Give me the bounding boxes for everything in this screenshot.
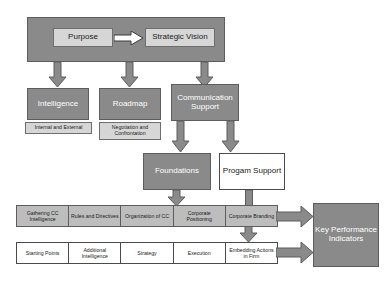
bar-bottom-cell: Embedding Actions in Firm bbox=[225, 242, 278, 264]
communication-support-box: Communication Support bbox=[171, 84, 239, 121]
purpose-label: Purpose bbox=[68, 33, 98, 42]
right-arrow-icon-kpi-top bbox=[276, 206, 314, 227]
intelligence-sublabel: Internal and External bbox=[35, 125, 83, 131]
right-arrow-icon-kpi-bottom bbox=[276, 242, 314, 263]
purpose-box: Purpose bbox=[53, 28, 113, 47]
bar-bottom-cell: Starting Points bbox=[16, 242, 69, 264]
program-support-box: Progam Support bbox=[219, 153, 285, 190]
program-support-label: Progam Support bbox=[223, 167, 281, 176]
down-arrow-icon-foundations bbox=[172, 121, 190, 153]
bar-top-cell: Organization of CC bbox=[120, 205, 173, 227]
key-performance-indicators-label: Key Performance Indicators bbox=[314, 226, 378, 244]
bar-bottom-cell: Strategy bbox=[120, 242, 173, 264]
strategic-vision-box: Strategic Vision bbox=[145, 28, 215, 47]
bar-top-row: Gathering CC Intelligence Rules and Dire… bbox=[16, 205, 278, 227]
roadmap-label: Roadmap bbox=[113, 100, 148, 109]
right-arrow-icon bbox=[114, 31, 144, 45]
roadmap-sublabel-box: Negotiation and Confrontation bbox=[99, 122, 161, 140]
bar-top-cell: Corporate Branding bbox=[225, 205, 278, 227]
bar-bottom-row: Starting Points Additional Intelligence … bbox=[16, 242, 278, 264]
foundations-label: Foundations bbox=[155, 167, 199, 176]
bar-bottom-cell: Additional Intelligence bbox=[68, 242, 121, 264]
bar-top-cell: Rules and Directives bbox=[68, 205, 121, 227]
bar-bottom-cell: Execution bbox=[173, 242, 226, 264]
strategic-vision-label: Strategic Vision bbox=[152, 33, 207, 42]
down-arrow-icon-roadmap bbox=[120, 62, 139, 88]
roadmap-sublabel: Negotiation and Confrontation bbox=[100, 125, 160, 137]
bar-top-cell: Gathering CC Intelligence bbox=[16, 205, 69, 227]
key-performance-indicators-box: Key Performance Indicators bbox=[313, 203, 379, 267]
roadmap-box: Roadmap bbox=[99, 88, 161, 120]
intelligence-sublabel-box: Internal and External bbox=[25, 122, 92, 134]
diagram-canvas: Purpose Strategic Vision Intelligence In… bbox=[0, 0, 392, 283]
intelligence-box: Intelligence bbox=[27, 88, 89, 120]
communication-support-label: Communication Support bbox=[172, 94, 238, 112]
intelligence-label: Intelligence bbox=[38, 100, 78, 109]
down-arrow-icon-intelligence bbox=[48, 62, 67, 88]
bar-top-cell: Corporate Positioning bbox=[173, 205, 226, 227]
down-arrow-icon-bar-bottom bbox=[240, 226, 258, 243]
foundations-box: Foundations bbox=[143, 153, 211, 190]
connector-line-program-support bbox=[245, 190, 253, 206]
down-arrow-icon-program-support bbox=[222, 121, 240, 153]
